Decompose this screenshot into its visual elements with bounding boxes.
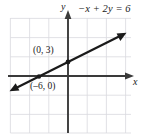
y-axis-arrow-icon	[65, 10, 72, 19]
point-marker-y-intercept	[66, 60, 71, 65]
equation-label: −x + 2y = 6	[78, 4, 131, 15]
point-label-x-intercept: (–6, 0)	[30, 82, 55, 92]
coordinate-plane-svg	[0, 0, 143, 140]
point-label-y-intercept: (0, 3)	[33, 46, 54, 56]
y-axis-label: y	[61, 2, 65, 12]
x-axis-label: x	[133, 77, 137, 87]
point-marker-x-intercept	[37, 74, 41, 78]
x-axis	[8, 73, 134, 80]
graph-figure: −x + 2y = 6 y x (0, 3) (–6, 0)	[0, 0, 143, 140]
